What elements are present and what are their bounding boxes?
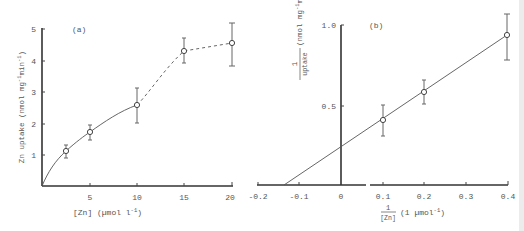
panel-a-x-ticks: 5 10 15 20 xyxy=(88,182,235,202)
panel-b: 0.5 1.0 -0.2 -0.1 0 0.1 0.2 0.3 0.4 (b) … xyxy=(248,0,515,222)
svg-text:[Zn]: [Zn] xyxy=(380,215,396,222)
panel-a-ytick-label: 1 xyxy=(31,151,36,160)
panel-b-xtick-label: 0.2 xyxy=(417,192,432,201)
panel-a-fit-curve xyxy=(42,105,137,186)
panel-b-x-ticks: -0.2 -0.1 0 0.1 0.2 0.3 0.4 xyxy=(248,181,515,201)
panel-a-xtick-label: 15 xyxy=(179,193,189,202)
data-point xyxy=(421,89,426,94)
svg-text:(nmol mg-1min-1): (nmol mg-1min-1) xyxy=(294,0,304,46)
panel-b-label: (b) xyxy=(369,21,383,30)
data-point xyxy=(181,48,186,53)
panel-a-xtick-label: 20 xyxy=(225,193,235,202)
panel-b-xtick-label: 0 xyxy=(339,192,344,201)
panel-b-xtick-label: 0.1 xyxy=(376,192,391,201)
panel-b-xtick-label: -0.2 xyxy=(248,192,267,201)
panel-b-xtick-label: -0.1 xyxy=(289,192,308,201)
panel-b-ytick-label: 1.0 xyxy=(322,21,337,30)
data-point xyxy=(63,148,68,153)
data-point xyxy=(87,129,92,134)
data-point xyxy=(380,117,385,122)
panel-a: 1 2 3 4 5 5 10 15 20 (a) Zn uptake (nmol… xyxy=(16,23,235,217)
figure: 1 2 3 4 5 5 10 15 20 (a) Zn uptake (nmol… xyxy=(0,0,524,231)
panel-b-y-title: 1 uptake (nmol mg-1min-1) xyxy=(291,0,309,80)
panel-b-xtick-label: 0.3 xyxy=(459,192,474,201)
svg-text:(1 µmol-1): (1 µmol-1) xyxy=(400,207,445,217)
panel-a-ytick-label: 3 xyxy=(31,88,36,97)
svg-text:1: 1 xyxy=(386,204,390,212)
panel-a-ytick-label: 2 xyxy=(31,120,36,129)
data-point xyxy=(229,40,234,45)
panel-a-y-title: Zn uptake (nmol mg-1min-1) xyxy=(16,51,26,163)
panel-b-error-bars xyxy=(381,14,510,136)
panel-a-data-points xyxy=(63,40,234,153)
panel-b-ytick-label: 0.5 xyxy=(322,102,337,111)
svg-text:uptake: uptake xyxy=(302,52,309,76)
panel-a-ytick-label: 4 xyxy=(31,57,36,66)
svg-text:1: 1 xyxy=(291,61,299,66)
data-point xyxy=(134,102,139,107)
panel-a-label: (a) xyxy=(72,25,86,34)
panel-a-xtick-label: 5 xyxy=(88,193,93,202)
panel-a-x-title: [Zn] (µmol l-1) xyxy=(73,207,142,217)
panel-a-y-ticks: 1 2 3 4 5 xyxy=(31,25,45,160)
panel-a-ytick-label: 5 xyxy=(31,25,36,34)
panel-b-xtick-label: 0.4 xyxy=(501,192,516,201)
panel-a-xtick-label: 10 xyxy=(132,193,142,202)
data-point xyxy=(504,32,509,37)
panel-b-x-title: 1 [Zn] (1 µmol-1) xyxy=(380,204,445,222)
panel-b-fit-line xyxy=(284,35,507,185)
